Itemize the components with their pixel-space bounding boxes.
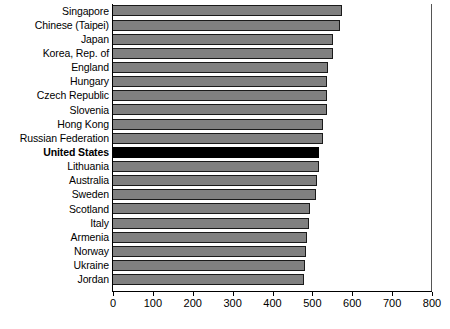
category-label: Lithuania: [0, 161, 112, 172]
bar-track: [112, 32, 431, 46]
x-axis-tick: [113, 292, 114, 296]
bar-track: [112, 117, 431, 131]
chart-row: Singapore: [0, 4, 450, 18]
chart-row: Russian Federation: [0, 131, 450, 145]
chart-row: England: [0, 61, 450, 75]
x-axis-tick-label: 300: [223, 297, 241, 310]
bar-track: [112, 202, 431, 216]
category-label: Singapore: [0, 6, 112, 17]
bar: [112, 90, 327, 101]
bar-track: [112, 160, 431, 174]
x-axis-tick: [233, 292, 234, 296]
bar: [112, 76, 327, 87]
category-label: Italy: [0, 218, 112, 229]
chart-rows: SingaporeChinese (Taipei)JapanKorea, Rep…: [0, 4, 450, 287]
x-axis-tick-label: 700: [383, 297, 401, 310]
bar-track: [112, 174, 431, 188]
chart-row: Jordan: [0, 273, 450, 287]
bar-track: [112, 4, 431, 18]
category-label: Armenia: [0, 232, 112, 243]
category-label: Hong Kong: [0, 119, 112, 130]
bar: [112, 20, 340, 31]
chart-row: United States: [0, 145, 450, 159]
chart-row: Armenia: [0, 230, 450, 244]
chart-row: Scotland: [0, 202, 450, 216]
category-label: England: [0, 62, 112, 73]
category-label: Scotland: [0, 204, 112, 215]
bar-track: [112, 216, 431, 230]
chart-row: Norway: [0, 244, 450, 258]
bar: [112, 246, 306, 257]
x-axis-tick: [193, 292, 194, 296]
bar-track: [112, 145, 431, 159]
x-axis-tick-label: 500: [303, 297, 321, 310]
bar-chart: SingaporeChinese (Taipei)JapanKorea, Rep…: [0, 0, 450, 329]
category-label: Korea, Rep. of: [0, 48, 112, 59]
bar: [112, 260, 305, 271]
chart-row: Chinese (Taipei): [0, 18, 450, 32]
bar-track: [112, 244, 431, 258]
category-label: Russian Federation: [0, 133, 112, 144]
x-axis-tick-label: 0: [110, 297, 116, 310]
chart-row: Lithuania: [0, 160, 450, 174]
bar-track: [112, 230, 431, 244]
category-label: Czech Republic: [0, 90, 112, 101]
chart-row: Japan: [0, 32, 450, 46]
x-axis-tick: [392, 292, 393, 296]
chart-row: Korea, Rep. of: [0, 46, 450, 60]
bar: [112, 189, 316, 200]
bar-track: [112, 61, 431, 75]
category-label: Japan: [0, 34, 112, 45]
bar-track: [112, 18, 431, 32]
bar: [112, 5, 342, 16]
x-axis-tick-label: 400: [263, 297, 281, 310]
bar: [112, 119, 323, 130]
bar: [112, 62, 328, 73]
category-label: Hungary: [0, 76, 112, 87]
bar: [112, 274, 304, 285]
x-axis-tick: [312, 292, 313, 296]
bar-track: [112, 259, 431, 273]
bar: [112, 48, 333, 59]
chart-row: Hungary: [0, 75, 450, 89]
chart-row: Italy: [0, 216, 450, 230]
category-label: Sweden: [0, 189, 112, 200]
bar-track: [112, 89, 431, 103]
bar-track: [112, 188, 431, 202]
category-label: Australia: [0, 175, 112, 186]
category-label: Norway: [0, 246, 112, 257]
bar: [112, 175, 317, 186]
x-axis-tick-label: 100: [144, 297, 162, 310]
bar: [112, 34, 333, 45]
category-label: United States: [0, 147, 112, 158]
x-axis-tick-label: 600: [343, 297, 361, 310]
bar-track: [112, 131, 431, 145]
bar: [112, 232, 307, 243]
x-axis-tick-label: 800: [423, 297, 441, 310]
bar-track: [112, 103, 431, 117]
chart-row: Ukraine: [0, 259, 450, 273]
chart-row: Czech Republic: [0, 89, 450, 103]
x-axis-tick: [432, 292, 433, 296]
bar-track: [112, 46, 431, 60]
bar: [112, 203, 310, 214]
bar-track: [112, 273, 431, 287]
bar-track: [112, 75, 431, 89]
x-axis-tick-label: 200: [184, 297, 202, 310]
chart-row: Slovenia: [0, 103, 450, 117]
category-label: Jordan: [0, 274, 112, 285]
chart-row: Hong Kong: [0, 117, 450, 131]
bar: [112, 218, 309, 229]
bar: [112, 161, 319, 172]
chart-row: Sweden: [0, 188, 450, 202]
category-label: Chinese (Taipei): [0, 20, 112, 31]
bar: [112, 133, 323, 144]
bar: [112, 147, 319, 158]
bar: [112, 104, 327, 115]
chart-row: Australia: [0, 174, 450, 188]
category-label: Slovenia: [0, 105, 112, 116]
category-label: Ukraine: [0, 260, 112, 271]
x-axis-tick: [352, 292, 353, 296]
x-axis-tick: [153, 292, 154, 296]
x-axis-tick: [273, 292, 274, 296]
